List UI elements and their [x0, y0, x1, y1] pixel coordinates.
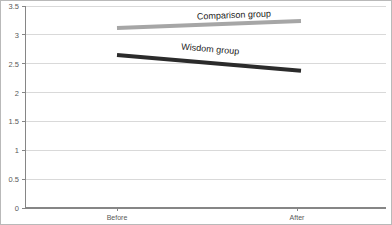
chart-plot-area: 3.5 3 2.5 2 1.5 1 0.5 0 Before After Com…: [1, 1, 392, 225]
ytick-label-0.5: 0.5: [9, 175, 19, 184]
xtick-label-before: Before: [107, 214, 128, 221]
ytick-label-1: 1: [15, 146, 19, 155]
ytick-label-3.5: 3.5: [9, 2, 19, 11]
series-line-comparison-group: [117, 21, 301, 28]
series-line-wisdom-group: [117, 55, 301, 71]
xtick-label-after: After: [290, 214, 305, 221]
ytick-label-1.5: 1.5: [9, 117, 19, 126]
series-label-wisdom-group: Wisdom group: [181, 42, 240, 57]
ytick-label-2: 2: [15, 89, 19, 98]
line-chart: 3.5 3 2.5 2 1.5 1 0.5 0 Before After Com…: [0, 0, 392, 225]
series-label-comparison-group: Comparison group: [197, 9, 271, 22]
ytick-label-0: 0: [15, 204, 19, 213]
ytick-label-2.5: 2.5: [9, 60, 19, 69]
ytick-label-3: 3: [15, 31, 19, 40]
